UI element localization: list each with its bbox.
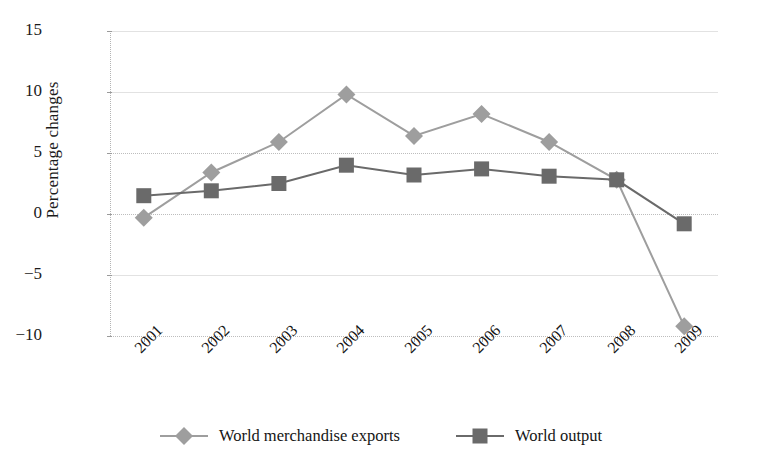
- y-tick-label--10: −10: [0, 325, 42, 345]
- legend-label: World output: [515, 426, 602, 446]
- y-tick-mark-5: [107, 153, 112, 154]
- gridline-15: [110, 31, 718, 32]
- plot-area: [110, 31, 718, 336]
- y-tick-mark-15: [107, 31, 112, 32]
- gridline-10: [110, 92, 718, 93]
- y-tick-label-10: 10: [0, 81, 42, 101]
- y-tick-label--5: −5: [0, 264, 42, 284]
- y-axis-title: Percentage changes: [43, 35, 63, 265]
- y-axis-spine: [110, 31, 111, 336]
- y-tick-label-5: 5: [0, 142, 42, 162]
- legend-label: World merchandise exports: [219, 426, 400, 446]
- gridline--5: [110, 275, 718, 276]
- y-tick-label-0: 0: [0, 203, 42, 223]
- y-tick-mark--5: [107, 275, 112, 276]
- legend-item-output[interactable]: World output: [454, 426, 602, 446]
- chart-figure: Percentage changes 151050−5−10 200120022…: [0, 0, 760, 470]
- legend-item-exports[interactable]: World merchandise exports: [158, 426, 400, 446]
- y-tick-mark-10: [107, 92, 112, 93]
- chart-legend: World merchandise exportsWorld output: [0, 426, 760, 446]
- square-marker-icon: [454, 426, 506, 446]
- y-tick-label-15: 15: [0, 20, 42, 40]
- gridline-5: [110, 153, 718, 154]
- y-tick-mark--10: [107, 336, 112, 337]
- gridline-0: [110, 214, 718, 215]
- diamond-marker-icon: [158, 426, 210, 446]
- y-tick-mark-0: [107, 214, 112, 215]
